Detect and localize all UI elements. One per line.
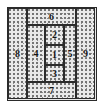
cell-label-7: 7	[49, 86, 54, 96]
dissection-cell-9: 9	[76, 8, 95, 99]
cell-label-5: 5	[68, 49, 73, 59]
dissection-cell-8: 8	[8, 8, 27, 99]
dissection-cell-1: 1	[45, 45, 64, 65]
cell-label-4: 4	[34, 49, 39, 59]
dissection-diagram: 8 6 4 2 1 3 5 7 9	[0, 0, 104, 108]
dissection-outer-frame: 8 6 4 2 1 3 5 7 9	[7, 7, 97, 101]
dissection-cell-7: 7	[27, 82, 76, 99]
dissection-cell-5: 5	[64, 25, 76, 82]
dissection-cell-6: 6	[27, 8, 76, 25]
dissection-cell-3: 3	[45, 65, 64, 82]
dissection-cell-2: 2	[45, 25, 64, 45]
cell-label-3: 3	[52, 69, 57, 79]
cell-label-1: 1	[52, 50, 57, 60]
cell-label-6: 6	[49, 12, 54, 22]
cell-label-2: 2	[52, 30, 57, 40]
dissection-cell-4: 4	[27, 25, 45, 82]
cell-label-8: 8	[15, 49, 20, 59]
cell-label-9: 9	[83, 49, 88, 59]
